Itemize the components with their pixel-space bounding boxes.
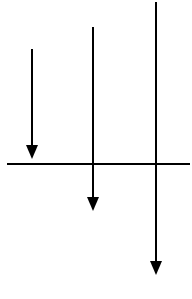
down-arrow-3 [150,2,162,275]
down-arrow-1 [26,49,38,159]
arrow-group [26,2,162,275]
arrows-diagram [0,0,192,299]
arrowhead-icon [26,145,38,159]
down-arrow-2 [87,27,99,211]
diagram-svg [0,0,192,299]
arrowhead-icon [87,197,99,211]
arrowhead-icon [150,261,162,275]
